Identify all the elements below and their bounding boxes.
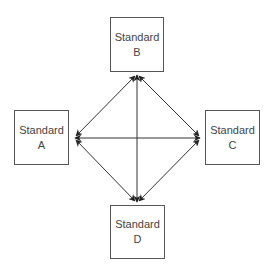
node-title: Standard: [210, 123, 255, 138]
node-title: Standard: [115, 217, 160, 232]
node-standard-b: Standard B: [110, 17, 164, 72]
node-title: Standard: [115, 30, 160, 45]
edge-a-b: [76, 76, 135, 136]
edge-c-d: [139, 140, 199, 201]
node-standard-a: Standard A: [14, 110, 69, 165]
node-standard-c: Standard C: [205, 110, 260, 165]
node-standard-d: Standard D: [110, 205, 165, 259]
node-label: A: [38, 138, 45, 153]
node-label: D: [134, 232, 142, 247]
node-title: Standard: [19, 123, 64, 138]
edge-b-c: [139, 76, 199, 136]
edge-d-a: [76, 140, 135, 201]
node-label: B: [133, 45, 140, 60]
node-label: C: [229, 138, 237, 153]
